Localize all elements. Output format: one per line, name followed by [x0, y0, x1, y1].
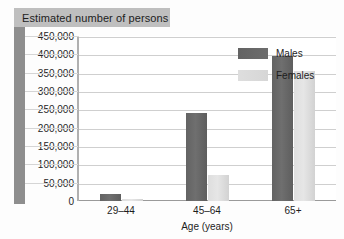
- chart-legend: Males Females: [238, 48, 314, 92]
- x-axis-tick-labels: 29–4445–6465+: [78, 205, 336, 221]
- x-axis-tick-label: 29–44: [107, 205, 135, 216]
- y-label-separator: [25, 109, 78, 110]
- y-label-separator: [25, 183, 78, 184]
- legend-item-females: Females: [238, 70, 314, 81]
- bar-females-45–64: [208, 175, 229, 201]
- y-label-separator: [25, 91, 78, 92]
- page-title: Estimated number of persons: [22, 12, 168, 24]
- bar-females-29–44: [122, 199, 143, 201]
- x-axis-tick-label: 45–64: [193, 205, 221, 216]
- legend-swatch-males-icon: [238, 48, 268, 59]
- bar-males-29–44: [100, 194, 121, 201]
- x-axis-title: Age (years): [78, 221, 336, 232]
- y-axis-tick-label: 0: [68, 196, 74, 207]
- bar-males-45–64: [186, 113, 207, 201]
- y-label-separator: [25, 128, 78, 129]
- legend-item-males: Males: [238, 48, 314, 59]
- y-axis-tick-labels: 050,000100,000150,000200,000250,000300,0…: [25, 36, 78, 201]
- legend-swatch-females-icon: [238, 70, 268, 81]
- y-label-separator: [25, 54, 78, 55]
- chart-title-chip: Estimated number of persons: [14, 8, 170, 27]
- bar-group: [78, 36, 164, 201]
- chart-page: Estimated number of persons 050,000100,0…: [0, 0, 344, 239]
- legend-label-males: Males: [276, 48, 303, 59]
- legend-label-females: Females: [276, 70, 314, 81]
- x-axis-tick-label: 65+: [285, 205, 302, 216]
- y-label-separator: [25, 164, 78, 165]
- left-accent-band: [14, 8, 25, 204]
- y-label-separator: [25, 36, 78, 37]
- y-label-separator: [25, 146, 78, 147]
- y-label-separator: [25, 73, 78, 74]
